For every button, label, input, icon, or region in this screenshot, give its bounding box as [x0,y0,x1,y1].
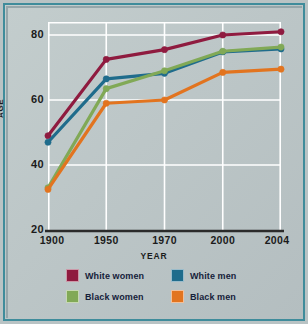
legend-item[interactable]: White women [66,269,144,282]
legend-item[interactable]: Black men [171,290,236,303]
y-tick-label-40: 40 [22,158,44,170]
legend-swatch-icon [66,269,79,282]
legend-swatch-icon [66,290,79,303]
y-tick-label-60: 60 [22,93,44,105]
y-axis-tick-labels: 80604020 [18,22,44,230]
x-axis-tick-labels: 19001950197020002004 [48,234,281,250]
plot-svg [48,22,281,230]
chart-legend: White womenWhite menBlack womenBlack men [66,269,266,311]
data-point-1900 [45,186,51,192]
x-tick-label-1970: 1970 [152,234,177,246]
data-point-2004 [278,66,284,72]
legend-item-label: Black men [190,292,236,302]
data-point-1900 [45,139,51,145]
data-point-1970 [161,47,167,53]
x-tick-label-2004: 2004 [265,234,290,246]
legend-item-label: White women [85,271,144,281]
data-point-1970 [161,97,167,103]
data-point-2000 [220,69,226,75]
data-point-1950 [103,100,109,106]
data-point-1970 [161,68,167,74]
x-tick-label-2000: 2000 [210,234,235,246]
y-axis-title: AGE [0,99,5,118]
legend-swatch-icon [171,290,184,303]
data-point-2000 [220,48,226,54]
legend-item[interactable]: White men [171,269,236,282]
legend-item[interactable]: Black women [66,290,144,303]
data-point-2004 [278,44,284,50]
legend-item-label: White men [190,271,236,281]
data-point-2000 [220,32,226,38]
data-point-1950 [103,86,109,92]
legend-item-label: Black women [85,292,144,302]
legend-swatch-icon [171,269,184,282]
y-tick-label-80: 80 [22,28,44,40]
plot-area [48,22,281,230]
data-point-1950 [103,56,109,62]
x-tick-label-1950: 1950 [94,234,119,246]
data-point-1950 [103,76,109,82]
x-tick-label-1900: 1900 [40,234,65,246]
chart-figure: 80604020 AGE 19001950197020002004 YEAR W… [0,0,308,324]
x-axis-title: YEAR [0,251,308,261]
data-point-2004 [278,29,284,35]
